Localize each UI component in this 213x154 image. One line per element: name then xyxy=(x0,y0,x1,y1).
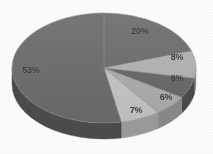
pie-chart-canvas xyxy=(0,0,213,154)
pie-top-sheen xyxy=(12,13,196,123)
pie-top-slices xyxy=(12,13,196,123)
pie-chart-figure: 20%8%6%6%7%53% xyxy=(0,0,213,154)
